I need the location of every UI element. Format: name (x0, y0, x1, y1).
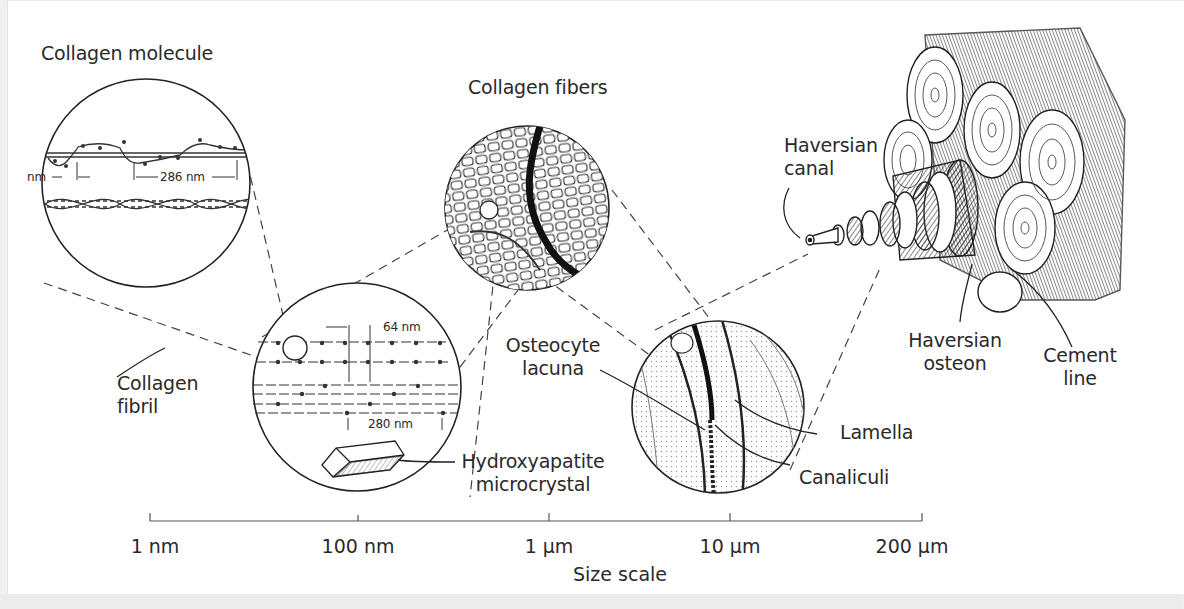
molecule-measure-left: nm (27, 170, 46, 184)
scale-tick-1um: 1 µm (525, 535, 574, 557)
scale-tick-200um: 200 µm (876, 535, 949, 557)
cement-line-line2: line (1030, 367, 1130, 390)
fibril-measure-280nm: 280 nm (368, 417, 413, 431)
size-scale-bar (150, 513, 922, 521)
osteocyte-lacuna-line2: lacuna (494, 357, 612, 380)
scale-tick-10um: 10 µm (700, 535, 761, 557)
size-scale-title: Size scale (573, 563, 667, 585)
canaliculi-label: Canaliculi (799, 466, 889, 489)
hydroxyapatite-label-line2: microcrystal (453, 473, 613, 496)
haversian-canal-line2: canal (784, 157, 878, 180)
haversian-canal-label: Haversian canal (784, 134, 878, 180)
hydroxyapatite-label: Hydroxyapatite microcrystal (453, 450, 613, 496)
collagen-fibers-title: Collagen fibers (468, 76, 607, 99)
collagen-molecule-title: Collagen molecule (41, 42, 213, 65)
collagen-molecule-panel (40, 79, 260, 287)
cement-line-line1: Cement (1030, 344, 1130, 367)
collagen-fibril-label-line1: Collagen (117, 372, 198, 395)
scale-tick-1nm: 1 nm (131, 535, 180, 557)
fibril-measure-64nm: 64 nm (383, 320, 420, 334)
molecule-measure-286nm: 286 nm (160, 170, 205, 184)
hydroxyapatite-label-line1: Hydroxyapatite (453, 450, 613, 473)
scale-tick-100nm: 100 nm (322, 535, 395, 557)
haversian-osteon-line1: Haversian (900, 329, 1010, 352)
haversian-canal-line1: Haversian (784, 134, 878, 157)
collagen-fibril-label-line2: fibril (117, 395, 198, 418)
collagen-fibril-label: Collagen fibril (117, 372, 198, 418)
osteocyte-lacuna-line1: Osteocyte (494, 334, 612, 357)
collagen-fibers-panel (440, 120, 620, 300)
osteocyte-lacuna-label: Osteocyte lacuna (494, 334, 612, 380)
lamella-panel (630, 320, 810, 500)
haversian-osteon-line2: osteon (900, 352, 1010, 375)
cement-line-label: Cement line (1030, 344, 1130, 390)
lamella-label: Lamella (840, 421, 913, 444)
collagen-fibril-panel (253, 283, 461, 491)
haversian-osteon-label: Haversian osteon (900, 329, 1010, 375)
